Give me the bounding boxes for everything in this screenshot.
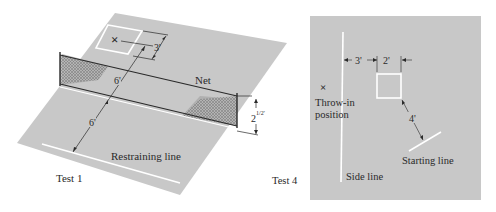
target-marker: × — [111, 32, 118, 47]
svg-text:3': 3' — [154, 42, 161, 53]
throw-in-marker: × — [320, 81, 326, 93]
diagram-canvas: × 3' Net — [0, 0, 496, 212]
svg-text:3': 3' — [355, 55, 362, 66]
throw-in-label-line2: position — [315, 109, 350, 120]
restraining-line-label: Restraining line — [111, 150, 181, 162]
test4-floor — [310, 16, 481, 200]
test1-caption: Test 1 — [56, 172, 82, 184]
svg-text:6': 6' — [114, 75, 121, 86]
starting-line-label: Starting line — [402, 155, 454, 166]
side-line-label: Side line — [346, 171, 383, 182]
svg-text:2': 2' — [383, 55, 390, 66]
net-label: Net — [195, 74, 211, 86]
test4-diagram: Side line × Throw-in position 3' 2' 4' — [272, 16, 481, 200]
svg-text:6': 6' — [89, 117, 96, 128]
test1-floor — [17, 13, 287, 195]
test4-caption: Test 4 — [272, 175, 298, 186]
test1-diagram: × 3' Net — [17, 13, 287, 195]
svg-text:4': 4' — [409, 113, 416, 124]
throw-in-label-line1: Throw-in — [315, 97, 355, 108]
svg-text:1/2': 1/2' — [256, 110, 265, 116]
